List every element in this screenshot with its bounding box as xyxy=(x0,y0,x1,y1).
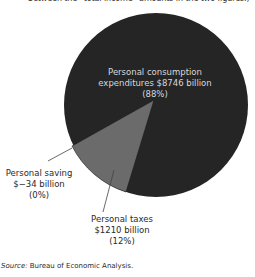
label-taxes-line3: (12%) xyxy=(82,236,162,247)
label-taxes: Personal taxes $1210 billion (12%) xyxy=(82,214,162,247)
label-consumption-line2: expenditures $8746 billion xyxy=(92,78,218,89)
label-consumption: Personal consumption expenditures $8746 … xyxy=(92,67,218,100)
label-consumption-line3: (88%) xyxy=(92,89,218,100)
label-consumption-line1: Personal consumption xyxy=(92,67,218,78)
label-saving: Personal saving $−34 billion (0%) xyxy=(3,168,75,201)
label-taxes-line1: Personal taxes xyxy=(82,214,162,225)
label-saving-line2: $−34 billion xyxy=(3,179,75,190)
source-text: Bureau of Economic Analysis. xyxy=(30,262,133,270)
leader-line-saving xyxy=(48,148,72,161)
source-label: Source: xyxy=(1,262,28,270)
source-note: Source: Bureau of Economic Analysis. xyxy=(1,262,133,270)
label-saving-line3: (0%) xyxy=(3,190,75,201)
label-taxes-line2: $1210 billion xyxy=(82,225,162,236)
label-saving-line1: Personal saving xyxy=(3,168,75,179)
